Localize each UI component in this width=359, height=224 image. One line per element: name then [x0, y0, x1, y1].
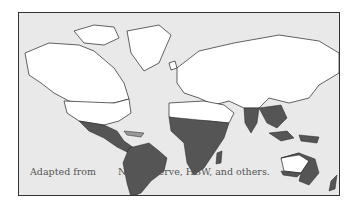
map-caption: Adapted fromNatureServe, HBW, and others…	[30, 166, 270, 177]
caption-sources: NatureServe, HBW, and others.	[118, 166, 270, 177]
land-absent	[25, 25, 339, 173]
caption-prefix: Adapted from	[30, 166, 96, 177]
